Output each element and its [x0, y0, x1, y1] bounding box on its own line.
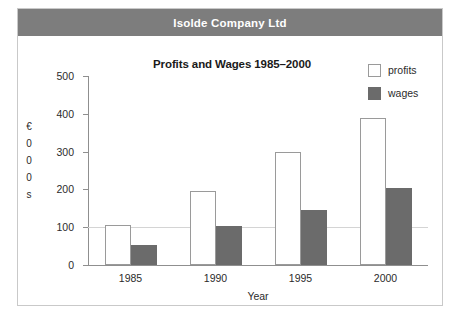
y-unit-char-0: €: [22, 118, 36, 135]
legend-swatch-profits-icon: [368, 64, 381, 77]
bar-group-1990: [190, 76, 242, 265]
y-tick-0: 0: [83, 265, 88, 266]
bar-group-2000: [360, 76, 412, 265]
y-axis-unit-label: € 0 0 0 s: [22, 118, 36, 203]
y-tick-label-500: 500: [56, 70, 74, 82]
x-tick-label-1990: 1990: [186, 272, 246, 284]
bar-wages-1990[interactable]: [216, 226, 242, 265]
y-tick-label-100: 100: [56, 221, 74, 233]
bar-wages-1985[interactable]: [131, 245, 157, 265]
y-unit-char-4: s: [22, 186, 36, 203]
y-tick-300: 300: [83, 152, 88, 153]
x-axis-line: [88, 265, 428, 266]
x-tick-label-2000: 2000: [356, 272, 416, 284]
y-tick-label-200: 200: [56, 183, 74, 195]
legend-label-profits: profits: [388, 64, 417, 76]
x-tick-label-1995: 1995: [271, 272, 331, 284]
bar-wages-2000[interactable]: [386, 188, 412, 265]
bar-profits-1985[interactable]: [105, 225, 131, 265]
company-header-band: Isolde Company Ltd: [18, 9, 442, 36]
plot-area: 0100200300400500 1985199019952000: [88, 76, 428, 266]
y-tick-200: 200: [83, 189, 88, 190]
y-tick-label-300: 300: [56, 146, 74, 158]
x-tick-label-1985: 1985: [101, 272, 161, 284]
y-unit-char-3: 0: [22, 169, 36, 186]
y-tick-label-0: 0: [68, 259, 74, 271]
chart-page: Isolde Company Ltd Profits and Wages 198…: [0, 0, 461, 322]
bar-profits-1990[interactable]: [190, 191, 216, 265]
y-tick-400: 400: [83, 114, 88, 115]
bar-profits-1995[interactable]: [275, 152, 301, 265]
bar-group-1985: [105, 76, 157, 265]
bar-profits-2000[interactable]: [360, 118, 386, 265]
chart-title: Profits and Wages 1985–2000: [112, 58, 352, 70]
y-unit-char-1: 0: [22, 135, 36, 152]
bar-wages-1995[interactable]: [301, 210, 327, 265]
y-tick-label-400: 400: [56, 108, 74, 120]
y-tick-500: 500: [83, 76, 88, 77]
y-unit-char-2: 0: [22, 152, 36, 169]
company-title: Isolde Company Ltd: [173, 17, 287, 29]
x-axis-title: Year: [88, 290, 428, 302]
y-axis-line: [88, 76, 89, 266]
bar-group-1995: [275, 76, 327, 265]
